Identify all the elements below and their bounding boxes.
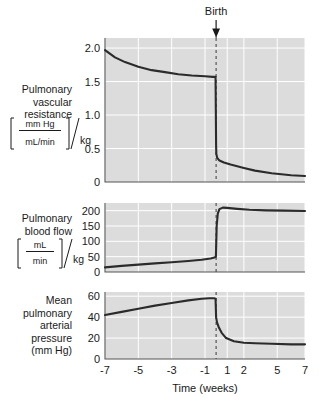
y-tick-label: 2.0 bbox=[85, 42, 100, 54]
panel-mean-pulmonary-arterial-pressure: 0204060 bbox=[88, 290, 305, 365]
x-tick-label: 1 bbox=[224, 364, 230, 376]
row-label-line: Mean bbox=[46, 294, 72, 306]
row-label-line: pressure bbox=[31, 332, 72, 344]
x-tick-label: -7 bbox=[100, 364, 110, 376]
y-tick-labels: 00.51.01.52.0 bbox=[85, 42, 100, 188]
y-tick-label: 50 bbox=[88, 251, 100, 263]
y-tick-label: 1.5 bbox=[85, 76, 100, 88]
row-label-line: pulmonary bbox=[23, 307, 73, 319]
row-label-line: blood flow bbox=[25, 225, 73, 237]
y-tick-labels: 0204060 bbox=[88, 290, 100, 365]
svg-text:kg: kg bbox=[73, 253, 84, 265]
y-tick-label: 1.0 bbox=[85, 109, 100, 121]
row-label-pulmonary-blood-flow: Pulmonaryblood flow bbox=[22, 212, 73, 237]
row-label-line: vascular bbox=[33, 96, 73, 108]
x-axis-title: Time (weeks) bbox=[172, 382, 238, 394]
x-tick-label: 7 bbox=[302, 364, 308, 376]
panel-pulmonary-blood-flow: 050100150200 bbox=[82, 203, 305, 278]
row-label-line: (mm Hg) bbox=[31, 344, 72, 356]
row-label-line: Pulmonary bbox=[22, 212, 73, 224]
x-tick-label: 5 bbox=[274, 364, 280, 376]
unit-fraction-bloodflow: mLminkg bbox=[18, 239, 84, 268]
row-label-pulmonary-vascular-resistance: Pulmonaryvascularresistance bbox=[22, 83, 73, 120]
y-tick-label: 150 bbox=[82, 220, 100, 232]
physiology-figure: 00.51.01.52.00501001502000204060Pulmonar… bbox=[0, 0, 319, 412]
y-tick-label: 0 bbox=[94, 353, 100, 365]
y-tick-label: 200 bbox=[82, 205, 100, 217]
birth-annotation: Birth bbox=[205, 5, 228, 38]
row-label-mean-pulmonary-arterial-pressure: Meanpulmonaryarterialpressure(mm Hg) bbox=[23, 294, 73, 356]
row-label-line: Pulmonary bbox=[22, 83, 73, 95]
birth-label: Birth bbox=[205, 5, 228, 17]
panel-pulmonary-vascular-resistance: 00.51.01.52.0 bbox=[85, 38, 305, 188]
y-tick-label: 60 bbox=[88, 290, 100, 302]
x-tick-label: -1 bbox=[200, 364, 210, 376]
x-tick-label: -5 bbox=[133, 364, 143, 376]
row-label-line: arterial bbox=[40, 319, 72, 331]
y-tick-label: 100 bbox=[82, 235, 100, 247]
y-tick-labels: 050100150200 bbox=[82, 205, 100, 278]
x-tick-label: -3 bbox=[167, 364, 177, 376]
svg-text:kg: kg bbox=[80, 134, 91, 146]
y-tick-label: 0 bbox=[94, 266, 100, 278]
svg-text:min: min bbox=[33, 256, 48, 266]
y-tick-label: 0 bbox=[94, 176, 100, 188]
x-axis: -7-5-3-11257Time (weeks) bbox=[100, 364, 308, 394]
y-tick-label: 40 bbox=[88, 311, 100, 323]
svg-text:mL: mL bbox=[34, 240, 47, 250]
y-tick-label: 20 bbox=[88, 332, 100, 344]
x-tick-label: 2 bbox=[241, 364, 247, 376]
svg-text:mL/min: mL/min bbox=[25, 137, 55, 147]
chart-canvas: 00.51.01.52.00501001502000204060Pulmonar… bbox=[0, 0, 319, 412]
birth-arrow-head bbox=[213, 29, 219, 36]
unit-fraction-resistance: mm HgmL/minkg bbox=[11, 118, 91, 149]
svg-text:mm Hg: mm Hg bbox=[26, 119, 55, 129]
